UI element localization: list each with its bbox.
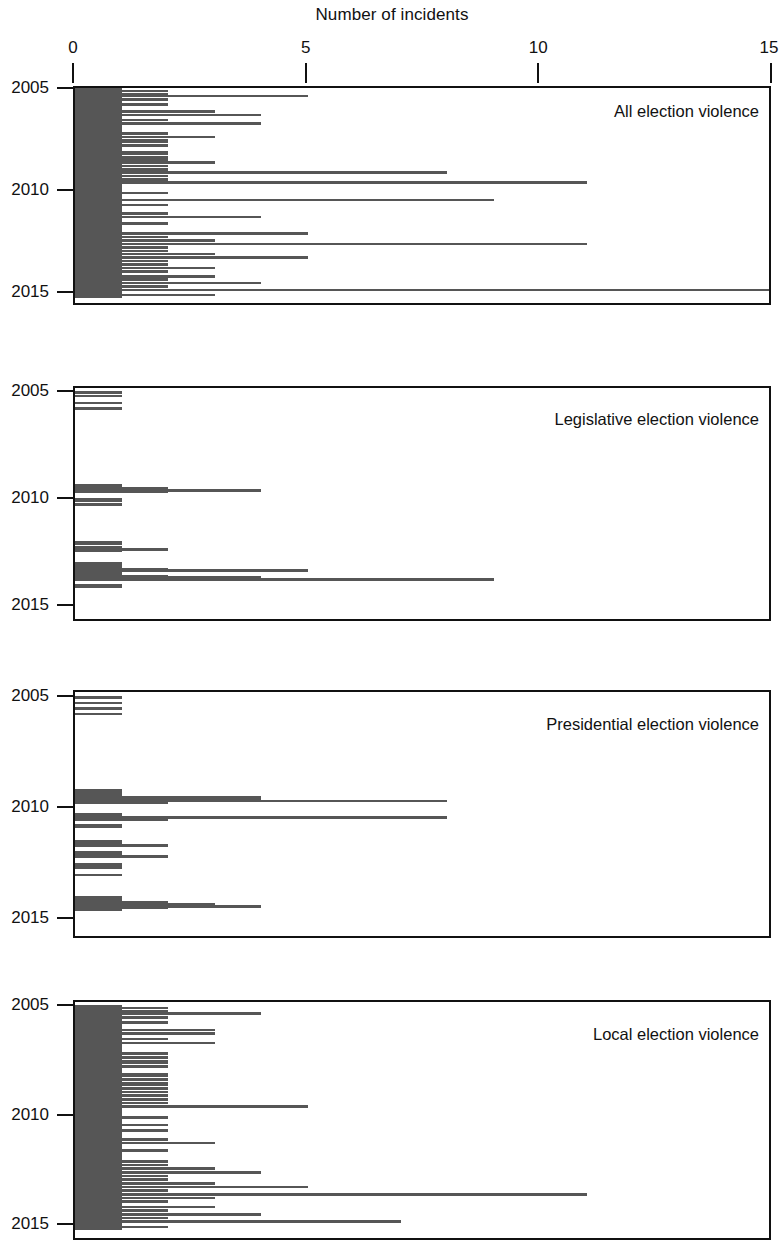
bar: [75, 243, 587, 246]
y-tick-mark-2010: [57, 497, 73, 499]
y-tick-mark-2015: [57, 917, 73, 919]
x-tick-label-15: 15: [760, 38, 779, 58]
plot-area-presidential: Presidential election violence: [73, 690, 771, 938]
y-tick-mark-2010: [57, 189, 73, 191]
bar: [75, 855, 168, 858]
panel-top-tick-5: [307, 690, 309, 692]
y-tick-mark-2010: [57, 1114, 73, 1116]
bar: [75, 295, 122, 298]
bar: [75, 289, 771, 292]
y-tick-label-2010: 2010: [11, 180, 49, 200]
bar: [75, 585, 122, 588]
bar: [75, 171, 447, 174]
y-tick-mark-2010: [57, 806, 73, 808]
bar: [75, 550, 122, 553]
panel-top-tick-10: [539, 690, 541, 692]
panel-top-tick-5: [307, 386, 309, 388]
bar: [75, 702, 122, 705]
panel-top-tick-10: [539, 386, 541, 388]
bar: [75, 407, 122, 410]
bar: [75, 391, 122, 394]
y-tick-mark-2015: [57, 604, 73, 606]
x-tick-label-5: 5: [301, 38, 310, 58]
y-tick-label-2015: 2015: [11, 908, 49, 928]
bar: [75, 909, 122, 912]
panel-top-tick-10: [539, 1000, 541, 1002]
bar: [75, 402, 122, 405]
bar: [75, 818, 168, 821]
panel-top-tick-15: [769, 690, 771, 692]
y-tick-label-2015: 2015: [11, 1214, 49, 1234]
bar: [75, 696, 122, 699]
bar: [75, 801, 168, 804]
x-tick-mark-15: [770, 63, 772, 83]
y-tick-mark-2005: [57, 1004, 73, 1006]
bar: [75, 844, 168, 847]
panel-legislative-election-violence: Legislative election violence: [0, 386, 784, 621]
panel-presidential-election-violence: Presidential election violence: [0, 690, 784, 938]
panel-top-tick-15: [769, 1000, 771, 1002]
panel-label-all: All election violence: [614, 102, 759, 121]
y-tick-label-2005: 2005: [11, 78, 49, 98]
x-tick-label-10: 10: [529, 38, 548, 58]
x-tick-mark-0: [72, 63, 74, 83]
panel-top-tick-15: [769, 386, 771, 388]
y-tick-label-2005: 2005: [11, 686, 49, 706]
y-tick-label-2005: 2005: [11, 995, 49, 1015]
bar: [75, 707, 122, 710]
panel-top-tick-0: [75, 1000, 77, 1002]
bar: [75, 578, 494, 581]
y-tick-mark-2015: [57, 291, 73, 293]
y-tick-label-2010: 2010: [11, 797, 49, 817]
bar: [75, 491, 168, 494]
panel-all-election-violence: All election violence: [0, 86, 784, 305]
y-tick-mark-2005: [57, 695, 73, 697]
y-tick-label-2015: 2015: [11, 282, 49, 302]
panel-label-local: Local election violence: [593, 1025, 759, 1044]
panel-top-tick-0: [75, 386, 77, 388]
bar: [75, 181, 587, 184]
y-tick-mark-2015: [57, 1223, 73, 1225]
x-axis: 051015: [0, 0, 784, 90]
panel-top-tick-5: [307, 1000, 309, 1002]
bar: [75, 825, 122, 828]
panel-top-tick-0: [75, 690, 77, 692]
bar: [75, 1220, 401, 1223]
x-tick-label-0: 0: [68, 38, 77, 58]
x-tick-mark-5: [305, 63, 307, 83]
bar: [75, 713, 122, 716]
y-tick-label-2010: 2010: [11, 488, 49, 508]
bar: [75, 1193, 587, 1196]
plot-area-legislative: Legislative election violence: [73, 386, 771, 621]
panel-local-election-violence: Local election violence: [0, 1000, 784, 1240]
panel-label-presidential: Presidential election violence: [546, 715, 759, 734]
bar: [75, 500, 122, 503]
y-tick-label-2005: 2005: [11, 381, 49, 401]
y-tick-mark-2005: [57, 87, 73, 89]
y-tick-mark-2005: [57, 390, 73, 392]
plot-area-local: Local election violence: [73, 1000, 771, 1240]
election-violence-figure: Number of incidents 051015 All election …: [0, 0, 784, 1245]
bar: [75, 874, 122, 877]
bar: [75, 395, 122, 398]
bar: [75, 199, 494, 202]
x-tick-mark-10: [537, 63, 539, 83]
plot-area-all: All election violence: [73, 86, 771, 305]
bar: [75, 543, 122, 546]
panel-label-legislative: Legislative election violence: [554, 410, 759, 429]
y-tick-label-2010: 2010: [11, 1105, 49, 1125]
bar: [75, 503, 122, 506]
y-tick-label-2015: 2015: [11, 595, 49, 615]
bar: [75, 1228, 122, 1231]
bar: [75, 866, 122, 869]
